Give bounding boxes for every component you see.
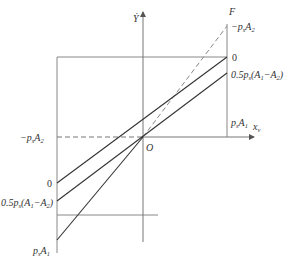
right-label-psa1: psA1 xyxy=(230,117,248,129)
right-label-zero: 0 xyxy=(232,52,237,63)
x-axis-label: xv xyxy=(252,121,260,133)
line-zero xyxy=(57,57,227,183)
right-label-neg-psa2: −psA2 xyxy=(231,21,255,33)
origin-label: O xyxy=(146,142,153,153)
left-label-zero: 0 xyxy=(47,178,52,189)
left-label-half: 0.5ps(A1−A2) xyxy=(1,197,54,209)
left-label-psa1: psA1 xyxy=(32,245,50,257)
left-label-neg-psa2: −psA2 xyxy=(20,132,44,144)
line-full xyxy=(57,137,143,240)
dashed-diagonal-line xyxy=(143,26,227,137)
f-axis-label: F xyxy=(228,6,236,17)
force-velocity-diagram: Ẏ F O xv −psA2 0 0.5ps(A1−A2) psA1 −psA2… xyxy=(0,0,285,259)
right-label-half: 0.5ps(A1−A2) xyxy=(231,69,284,81)
y-axis-label: Ẏ xyxy=(133,13,140,24)
